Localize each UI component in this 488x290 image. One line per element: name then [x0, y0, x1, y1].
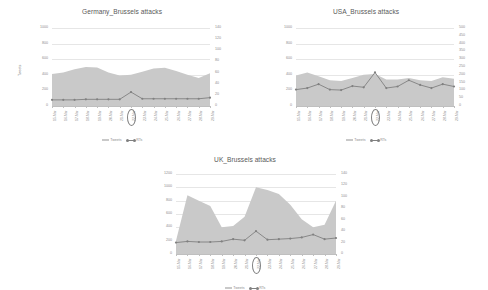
- x-axis-label: 18-Mar: [331, 110, 334, 121]
- x-axis-label: 18-Mar: [87, 110, 90, 121]
- x-axis-label: 28-Mar: [200, 110, 203, 121]
- x-axis-tickmark: [210, 254, 211, 256]
- legend-item-tweets[interactable]: Tweets: [225, 286, 245, 290]
- chart-legend: TweetsRTs: [120, 286, 370, 290]
- x-axis-label: 20-Mar: [235, 258, 238, 269]
- x-axis-label: 20-Mar: [110, 110, 113, 121]
- data-point-marker: [107, 98, 109, 100]
- x-axis-tickmark: [75, 106, 76, 108]
- x-axis-label: 27-Mar: [433, 110, 436, 121]
- data-point-marker: [62, 99, 64, 101]
- data-point-marker: [335, 237, 337, 239]
- data-point-marker: [175, 98, 177, 100]
- data-point-marker: [295, 89, 297, 91]
- data-point-marker: [363, 86, 365, 88]
- legend-label-tweets: Tweets: [354, 138, 365, 142]
- data-point-marker: [306, 87, 308, 89]
- x-axis-tickmark: [222, 254, 223, 256]
- data-point-marker: [329, 89, 331, 91]
- x-axis-tickmark: [176, 106, 177, 108]
- x-axis-tickmark: [364, 106, 365, 108]
- x-axis-label: 19-Mar: [343, 110, 346, 121]
- x-axis-label: 25-Mar: [166, 110, 169, 121]
- x-axis-tickmark: [142, 106, 143, 108]
- legend-label-tweets: Tweets: [110, 138, 121, 142]
- x-axis-label: 24-Mar: [399, 110, 402, 121]
- x-axis-tickmark: [187, 106, 188, 108]
- x-axis-label: 16-Mar: [189, 258, 192, 269]
- x-axis-label: 25-Mar: [292, 258, 295, 269]
- legend-label-rts: RTs: [136, 138, 142, 142]
- data-point-marker: [374, 71, 376, 73]
- legend-item-rts[interactable]: RTs: [371, 138, 387, 142]
- legend-item-tweets[interactable]: Tweets: [346, 138, 366, 142]
- data-point-marker: [130, 91, 132, 93]
- x-axis-label: 15-Mar: [54, 110, 57, 121]
- data-point-marker: [351, 85, 353, 87]
- x-axis-tickmark: [52, 106, 53, 108]
- data-point-marker: [96, 98, 98, 100]
- x-axis-tickmark: [454, 106, 455, 108]
- x-axis-tickmark: [63, 106, 64, 108]
- x-axis-tickmark: [375, 106, 376, 108]
- x-axis-tickmark: [267, 254, 268, 256]
- legend-item-rts[interactable]: RTs: [127, 138, 143, 142]
- data-point-marker: [255, 230, 257, 232]
- x-axis-tickmark: [398, 106, 399, 108]
- x-axis-tickmark: [131, 106, 132, 108]
- x-axis-label: 15-Mar: [178, 258, 181, 269]
- chart-series-layer: [0, 2, 244, 150]
- data-point-marker: [243, 239, 245, 241]
- x-axis-label: 21-Mar: [121, 110, 124, 121]
- x-axis-label: 25-Mar: [410, 110, 413, 121]
- legend-item-tweets[interactable]: Tweets: [102, 138, 122, 142]
- legend-item-rts[interactable]: RTs: [250, 286, 266, 290]
- plot-wrap-uk: 0200400600800100012000204060801001201401…: [120, 152, 370, 289]
- x-axis-label: 27-Mar: [189, 110, 192, 121]
- chart-panel-usa: USA_Brussels attacks 0200400600800100005…: [244, 2, 488, 150]
- legend-label-tweets: Tweets: [233, 286, 244, 290]
- data-point-marker: [73, 99, 75, 101]
- data-point-marker: [396, 85, 398, 87]
- x-axis-tickmark: [313, 254, 314, 256]
- data-point-marker: [119, 98, 121, 100]
- plot-wrap-germany: 02004006008001000020406080100120140Tweet…: [0, 2, 244, 150]
- x-axis-tickmark: [245, 254, 246, 256]
- data-point-marker: [186, 240, 188, 242]
- data-point-marker: [453, 85, 455, 87]
- line-swatch-icon: [371, 140, 379, 141]
- x-axis-tickmark: [210, 106, 211, 108]
- x-axis-tickmark: [352, 106, 353, 108]
- x-axis-tickmark: [307, 106, 308, 108]
- data-point-marker: [301, 236, 303, 238]
- x-axis-label: 26-Mar: [422, 110, 425, 121]
- data-point-marker: [317, 83, 319, 85]
- x-axis-tickmark: [386, 106, 387, 108]
- x-axis-label: 29-Mar: [212, 110, 215, 121]
- data-point-marker: [232, 238, 234, 240]
- x-axis-label: 28-Mar: [444, 110, 447, 121]
- data-point-marker: [312, 233, 314, 235]
- data-point-marker: [186, 98, 188, 100]
- data-point-marker: [51, 99, 53, 101]
- line-swatch-icon: [127, 140, 135, 141]
- x-axis-tickmark: [176, 254, 177, 256]
- legend-label-rts: RTs: [380, 138, 386, 142]
- data-point-marker: [141, 98, 143, 100]
- area-swatch-icon: [346, 139, 353, 141]
- legend-label-rts: RTs: [259, 286, 265, 290]
- chart-legend: TweetsRTs: [244, 138, 488, 142]
- data-point-marker: [289, 237, 291, 239]
- data-point-marker: [278, 238, 280, 240]
- x-axis-tickmark: [120, 106, 121, 108]
- x-axis-label: 26-Mar: [178, 110, 181, 121]
- data-point-marker: [209, 241, 211, 243]
- x-axis-label: 29-Mar: [338, 258, 341, 269]
- x-axis-tickmark: [256, 254, 257, 256]
- x-axis-tickmark: [154, 106, 155, 108]
- data-point-marker: [430, 87, 432, 89]
- data-point-marker: [442, 83, 444, 85]
- x-axis-tickmark: [279, 254, 280, 256]
- x-axis-label: 24-Mar: [155, 110, 158, 121]
- data-point-marker: [175, 241, 177, 243]
